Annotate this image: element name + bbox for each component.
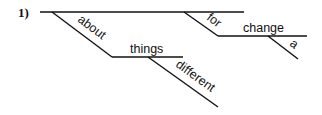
word-about: about — [75, 12, 109, 42]
word-change: change — [243, 21, 284, 35]
sentence-diagram: 1) about things different for change a — [0, 0, 322, 115]
word-a: a — [287, 36, 301, 51]
word-for: for — [204, 10, 224, 30]
item-number: 1) — [18, 5, 29, 20]
word-things: things — [130, 42, 163, 56]
word-different: different — [173, 57, 218, 95]
